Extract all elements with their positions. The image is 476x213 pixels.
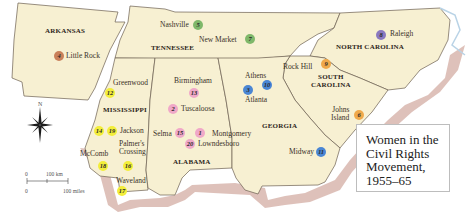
- marker-greenwood[interactable]: 12: [105, 88, 115, 98]
- state-label-georgia: GEORGIA: [262, 122, 297, 130]
- city-label-palmers-crossing: Palmer's Crossing: [119, 140, 146, 156]
- city-label-jackson: Jackson: [120, 127, 144, 135]
- marker-selma[interactable]: 15: [175, 128, 185, 138]
- city-label-tuscaloosa: Tuscaloosa: [181, 105, 214, 113]
- marker-number: 1: [198, 129, 201, 136]
- city-label-little-rock: Little Rock: [66, 52, 100, 60]
- marker-number: 14: [96, 127, 103, 134]
- scale-bar: [27, 178, 68, 184]
- city-label-raleigh: Raleigh: [390, 30, 413, 38]
- marker-tuscaloosa[interactable]: 2: [168, 104, 178, 114]
- marker-number: 7: [248, 35, 251, 42]
- city-label-johns-island-line2: Island: [331, 114, 349, 122]
- scale-mi-zero: 0: [25, 188, 28, 194]
- marker-jackson-14[interactable]: 14: [94, 126, 104, 136]
- marker-montgomery[interactable]: 1: [195, 128, 205, 138]
- marker-number: 8: [379, 31, 382, 38]
- city-label-johns-island: Johns Island: [331, 106, 349, 122]
- marker-number: 20: [187, 140, 194, 147]
- state-label-south-carolina-line2: CAROLINA: [311, 81, 351, 89]
- marker-new-market[interactable]: 7: [245, 34, 255, 44]
- marker-little-rock[interactable]: 4: [54, 51, 64, 61]
- scale-mi-label: 100 miles: [63, 188, 85, 194]
- city-label-new-market: New Market: [199, 36, 237, 44]
- city-label-greenwood: Greenwood: [113, 79, 148, 87]
- city-label-selma: Selma: [153, 130, 172, 138]
- scale-km-label: 100 km: [46, 171, 63, 177]
- marker-nashville[interactable]: 5: [193, 20, 203, 30]
- marker-number: 12: [107, 89, 114, 96]
- state-label-mississippi: MISSISSIPPI: [103, 106, 147, 114]
- state-label-south-carolina-line1: SOUTH: [311, 73, 351, 81]
- state-tennessee: [115, 6, 340, 60]
- marker-number: 16: [125, 162, 132, 169]
- map-title-box: Women in the Civil Rights Movement, 1955…: [356, 124, 450, 192]
- marker-number: 2: [171, 105, 174, 112]
- marker-number: 13: [191, 89, 198, 96]
- marker-rock-hill[interactable]: 9: [321, 59, 331, 69]
- marker-jackson-19[interactable]: 19: [107, 126, 117, 136]
- marker-raleigh[interactable]: 8: [376, 30, 386, 40]
- city-label-midway: Midway: [289, 148, 314, 156]
- city-label-rock-hill: Rock Hill: [283, 63, 312, 71]
- compass-rose-icon: [27, 107, 53, 143]
- marker-number: 9: [324, 60, 327, 67]
- city-label-birmingham: Birmingham: [174, 77, 212, 85]
- marker-johns-island[interactable]: 6: [354, 110, 364, 120]
- marker-mccomb[interactable]: 18: [98, 161, 108, 171]
- marker-number: 6: [357, 111, 360, 118]
- marker-waveland[interactable]: 17: [117, 186, 127, 196]
- marker-palmers-crossing[interactable]: 16: [123, 161, 133, 171]
- compass-north-label: N: [38, 101, 42, 107]
- city-label-palmers-crossing-line2: Crossing: [119, 148, 146, 156]
- map-title-line1: Women in the: [366, 133, 449, 147]
- state-label-south-carolina: SOUTH CAROLINA: [311, 73, 351, 89]
- marker-midway[interactable]: 11: [316, 147, 326, 157]
- marker-number: 5: [196, 21, 199, 28]
- map-title-line3: Movement,: [366, 160, 449, 174]
- marker-lowndesboro[interactable]: 20: [185, 139, 195, 149]
- city-label-montgomery: Montgomery: [212, 130, 251, 138]
- state-label-north-carolina: NORTH CAROLINA: [336, 43, 404, 51]
- state-label-alabama: ALABAMA: [173, 158, 211, 166]
- marker-number: 4: [57, 52, 60, 59]
- marker-birmingham[interactable]: 13: [189, 88, 199, 98]
- marker-number: 11: [318, 148, 324, 155]
- marker-number: 3: [246, 86, 249, 93]
- city-label-nashville: Nashville: [160, 21, 189, 29]
- marker-number: 19: [109, 127, 116, 134]
- marker-number: 17: [119, 187, 126, 194]
- marker-atlanta[interactable]: 3: [243, 85, 253, 95]
- city-label-mccomb: McComb: [80, 150, 108, 158]
- map-title-line2: Civil Rights: [366, 147, 449, 161]
- city-label-athens: Athens: [245, 72, 266, 80]
- city-label-atlanta: Atlanta: [245, 96, 267, 104]
- scale-km-zero: 0: [25, 171, 28, 177]
- marker-number: 10: [264, 81, 271, 88]
- state-label-tennessee: TENNESSEE: [151, 44, 194, 52]
- map-title-line4: 1955–65: [366, 174, 449, 188]
- city-label-lowndesboro: Lowndesboro: [198, 140, 239, 148]
- state-label-arkansas: ARKANSAS: [45, 27, 85, 35]
- city-label-waveland: Waveland: [116, 177, 146, 185]
- marker-athens[interactable]: 10: [262, 80, 272, 90]
- marker-number: 18: [100, 162, 107, 169]
- marker-number: 15: [177, 129, 184, 136]
